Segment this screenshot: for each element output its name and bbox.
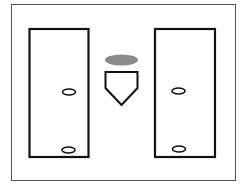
batters-box-diagram (0, 0, 242, 192)
catcher-marker (105, 55, 138, 66)
right-box-mark-lower (173, 146, 186, 152)
right-box-mark-upper (172, 88, 185, 94)
left-box-mark-lower (62, 147, 75, 153)
left-box-mark-upper (63, 89, 76, 95)
